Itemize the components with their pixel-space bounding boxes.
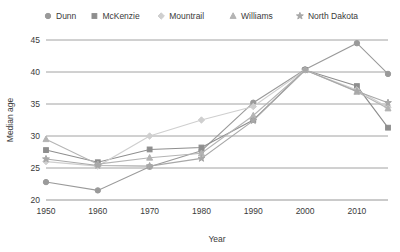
y-tick-label: 20 <box>31 195 41 205</box>
y-tick-label: 30 <box>31 131 41 141</box>
data-point-marker <box>385 99 392 106</box>
legend-label: North Dakota <box>308 11 358 21</box>
x-tick-label: 1960 <box>88 206 107 216</box>
series-north-dakota <box>43 66 392 169</box>
data-point-marker <box>43 179 48 184</box>
legend-marker-square <box>92 14 97 19</box>
x-tick-label: 1990 <box>244 206 263 216</box>
grid-lines: 202530354045 <box>31 35 388 205</box>
legend: DunnMcKenzieMountrailWilliamsNorth Dakot… <box>45 11 358 21</box>
data-point-marker <box>198 117 204 123</box>
series-williams <box>43 67 391 167</box>
x-tick-label: 2000 <box>296 206 315 216</box>
data-point-marker <box>43 136 49 142</box>
y-tick-label: 35 <box>31 99 41 109</box>
median-age-line-chart: 2025303540451950196019701980199020002010… <box>0 0 400 252</box>
y-tick-label: 45 <box>31 35 41 45</box>
data-point-marker <box>44 148 49 153</box>
data-point-marker <box>147 147 152 152</box>
data-point-marker <box>354 41 359 46</box>
legend-label: McKenzie <box>102 11 140 21</box>
series-line <box>46 70 388 166</box>
x-tick-label: 2010 <box>347 206 366 216</box>
x-tick-label: 1980 <box>192 206 211 216</box>
x-axis: 1950196019701980199020002010 <box>37 206 367 216</box>
legend-marker-circle <box>45 13 50 18</box>
legend-label: Dunn <box>56 11 77 21</box>
chart-container: 2025303540451950196019701980199020002010… <box>0 0 400 252</box>
x-tick-label: 1950 <box>37 206 56 216</box>
legend-marker-triangle <box>230 13 236 19</box>
y-tick-label: 40 <box>31 67 41 77</box>
y-tick-label: 25 <box>31 163 41 173</box>
series-line <box>46 70 388 164</box>
series-dunn <box>43 41 390 194</box>
x-axis-title: Year <box>208 234 225 244</box>
data-point-marker <box>385 71 390 76</box>
data-point-marker <box>95 188 100 193</box>
series-line <box>46 70 388 166</box>
legend-marker-diamond <box>158 13 164 19</box>
data-point-marker <box>386 125 391 130</box>
legend-label: Mountrail <box>169 11 204 21</box>
legend-marker-star <box>296 12 303 19</box>
data-point-marker <box>146 133 152 139</box>
legend-label: Williams <box>241 11 273 21</box>
x-tick-label: 1970 <box>140 206 159 216</box>
y-axis-title: Median age <box>5 98 15 143</box>
series-mountrail <box>43 67 391 169</box>
